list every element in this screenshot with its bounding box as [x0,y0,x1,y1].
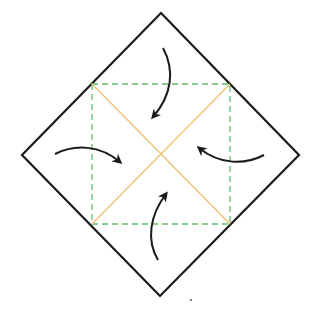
stray-dot [190,299,192,301]
left-fold-arrow-icon [55,148,120,162]
right-fold-arrow-icon [199,148,264,162]
top-fold-arrow-icon [153,48,170,117]
bottom-fold-arrow-icon [151,194,166,260]
folding-diagram [0,0,313,309]
